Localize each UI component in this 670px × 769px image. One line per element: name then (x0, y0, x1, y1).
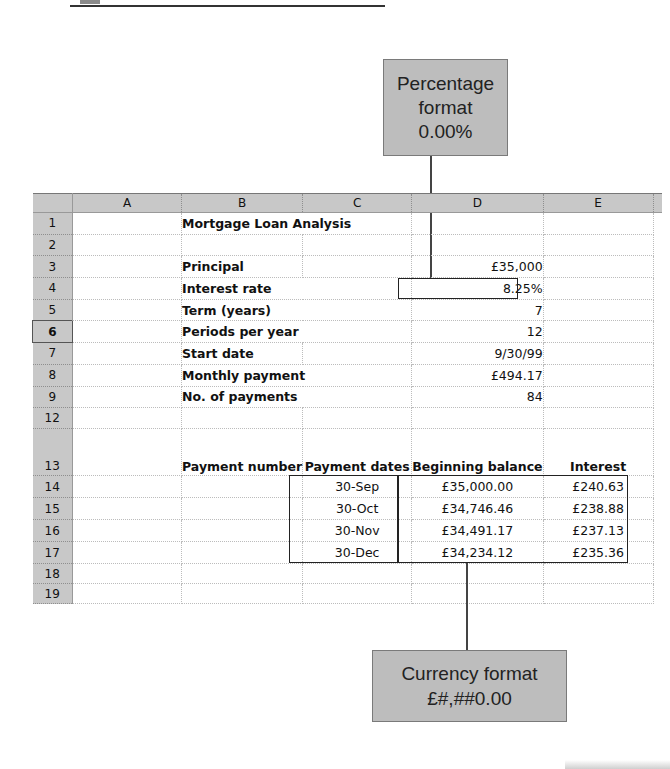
cell-a19[interactable] (73, 584, 182, 604)
cell-a5[interactable] (73, 299, 182, 321)
cell-e19[interactable] (543, 584, 653, 604)
cell-a13[interactable] (73, 429, 182, 476)
row-header[interactable]: 19 (33, 584, 73, 604)
table-row: 3 Principal £35,000 (33, 256, 663, 278)
column-header-d[interactable]: D (412, 194, 543, 213)
row-header[interactable]: 14 (33, 476, 73, 498)
column-header-a[interactable]: A (73, 194, 182, 213)
cell-b3-label[interactable]: Principal (182, 256, 303, 278)
cell-b13-payment-number-header[interactable]: Payment number (182, 429, 303, 476)
cell-b9-label[interactable]: No. of payments (182, 386, 412, 408)
column-header-b[interactable]: B (182, 194, 303, 213)
cell-b2[interactable] (182, 234, 303, 256)
table-row: 1 Mortgage Loan Analysis (33, 213, 663, 235)
cell-e7[interactable] (543, 343, 653, 365)
cell-a1[interactable] (73, 213, 182, 235)
row-header[interactable]: 7 (33, 343, 73, 365)
row-header-selected[interactable]: 6 (33, 321, 73, 343)
cell-d12[interactable] (412, 408, 543, 429)
row-header[interactable]: 3 (33, 256, 73, 278)
cell-b7-label[interactable]: Start date (182, 343, 303, 365)
cell-a18[interactable] (73, 564, 182, 584)
cell-a6[interactable] (73, 321, 182, 343)
cell-a2[interactable] (73, 234, 182, 256)
table-row: 18 (33, 564, 663, 584)
row-header[interactable]: 13 (33, 429, 73, 476)
table-row: 12 (33, 408, 663, 429)
cell-e13-interest-header[interactable]: Interest (543, 429, 653, 476)
table-row: 8 Monthly payment £494.17 (33, 364, 663, 386)
cell-a8[interactable] (73, 364, 182, 386)
cell-d1[interactable] (412, 213, 543, 235)
cell-b4-label[interactable]: Interest rate (182, 278, 412, 300)
row-header[interactable]: 8 (33, 364, 73, 386)
cell-e6[interactable] (543, 321, 653, 343)
cell-d19[interactable] (412, 584, 543, 604)
cell-b1-title[interactable]: Mortgage Loan Analysis (182, 213, 412, 235)
cell-d8-monthly-payment[interactable]: £494.17 (412, 364, 543, 386)
cell-d6-periods[interactable]: 12 (412, 321, 543, 343)
callout-line: format (384, 96, 507, 120)
cell-e9[interactable] (543, 386, 653, 408)
row-header[interactable]: 16 (33, 520, 73, 542)
row-header[interactable]: 18 (33, 564, 73, 584)
cell-b12[interactable] (182, 408, 303, 429)
cell-c19[interactable] (303, 584, 412, 604)
cell-d2[interactable] (412, 234, 543, 256)
cell-d13-beginning-balance-header[interactable]: Beginning balance (412, 429, 543, 476)
cell-b5-label[interactable]: Term (years) (182, 299, 412, 321)
cell-c7[interactable] (303, 343, 412, 365)
cell-a9[interactable] (73, 386, 182, 408)
percentage-format-callout: Percentage format 0.00% (383, 59, 508, 156)
cell-b19[interactable] (182, 584, 303, 604)
cell-a7[interactable] (73, 343, 182, 365)
cell-a16[interactable] (73, 520, 182, 542)
cell-b8-label[interactable]: Monthly payment (182, 364, 412, 386)
table-row: 9 No. of payments 84 (33, 386, 663, 408)
cell-e4[interactable] (543, 278, 653, 300)
cell-e8[interactable] (543, 364, 653, 386)
row-header[interactable]: 5 (33, 299, 73, 321)
cell-d9-num-payments[interactable]: 84 (412, 386, 543, 408)
cell-d3-principal[interactable]: £35,000 (412, 256, 543, 278)
cell-a15[interactable] (73, 498, 182, 520)
cell-a4[interactable] (73, 278, 182, 300)
table-row: 2 (33, 234, 663, 256)
row-header[interactable]: 9 (33, 386, 73, 408)
row-header[interactable]: 15 (33, 498, 73, 520)
cell-a3[interactable] (73, 256, 182, 278)
row-header[interactable]: 4 (33, 278, 73, 300)
cell-e12[interactable] (543, 408, 653, 429)
row-header[interactable]: 12 (33, 408, 73, 429)
row-header[interactable]: 17 (33, 542, 73, 564)
row-header[interactable]: 1 (33, 213, 73, 235)
row-header[interactable]: 2 (33, 234, 73, 256)
table-row: 5 Term (years) 7 (33, 299, 663, 321)
column-header-c[interactable]: C (303, 194, 412, 213)
cell-b14[interactable] (182, 476, 303, 498)
column-header-e[interactable]: E (543, 194, 653, 213)
cell-c13-payment-dates-header[interactable]: Payment dates (303, 429, 412, 476)
cell-c3[interactable] (303, 256, 412, 278)
cell-c18[interactable] (303, 564, 412, 584)
cell-d18[interactable] (412, 564, 543, 584)
select-all-corner[interactable] (33, 194, 73, 213)
cell-b18[interactable] (182, 564, 303, 584)
cell-e1[interactable] (543, 213, 653, 235)
cell-e3[interactable] (543, 256, 653, 278)
cell-a17[interactable] (73, 542, 182, 564)
cell-e2[interactable] (543, 234, 653, 256)
cell-e18[interactable] (543, 564, 653, 584)
cell-b6-label[interactable]: Periods per year (182, 321, 412, 343)
cell-b16[interactable] (182, 520, 303, 542)
cell-a14[interactable] (73, 476, 182, 498)
cell-a12[interactable] (73, 408, 182, 429)
cell-c2[interactable] (303, 234, 412, 256)
cell-b17[interactable] (182, 542, 303, 564)
cell-b15[interactable] (182, 498, 303, 520)
cell-e5[interactable] (543, 299, 653, 321)
cell-c12[interactable] (303, 408, 412, 429)
cell-d7-start-date[interactable]: 9/30/99 (412, 343, 543, 365)
cell-d5-term[interactable]: 7 (412, 299, 543, 321)
table-row: 4 Interest rate 8.25% (33, 278, 663, 300)
